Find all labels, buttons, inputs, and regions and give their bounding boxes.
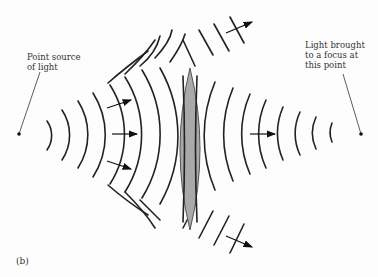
focus-label-line-2: to a focus at (305, 50, 365, 60)
source-label: Point source of light (27, 52, 81, 72)
focus-label-line-1: Light brought (305, 40, 365, 50)
converging-wavefronts (204, 82, 332, 190)
focus-label-line-3: this point (305, 60, 365, 70)
focus-point-dot (359, 132, 363, 136)
arrow-icon (226, 236, 252, 247)
panel-label: (b) (16, 256, 29, 266)
source-label-line-2: of light (27, 62, 81, 72)
focus-leader-line (343, 74, 361, 134)
source-point-dot (17, 132, 21, 136)
source-label-line-1: Point source (27, 52, 81, 62)
diverging-wavefronts (47, 68, 178, 204)
focus-label: Light brought to a focus at this point (305, 40, 365, 70)
source-leader-line (19, 72, 40, 134)
arrow-icon (226, 22, 252, 33)
